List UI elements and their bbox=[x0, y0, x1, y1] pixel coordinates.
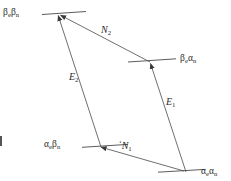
transition-arrow-E1 bbox=[151, 64, 187, 173]
transition-symbol: N bbox=[101, 24, 108, 35]
transition-subscript: 2 bbox=[75, 76, 78, 83]
energy-level-diagram: βeβn βeαn αeβn αeαn N2 E2 E1 ‘N1 bbox=[0, 0, 231, 181]
transition-arrow-E2 bbox=[58, 16, 101, 148]
level-bar-beta-e-beta-n bbox=[42, 12, 86, 15]
diagram-canvas bbox=[0, 0, 231, 181]
transition-prime-mark: ‘ bbox=[119, 139, 122, 148]
state-label-alpha-e-beta-n: αeβn bbox=[44, 140, 60, 150]
transition-subscript: 1 bbox=[128, 145, 131, 152]
transition-arrow-N2 bbox=[61, 15, 151, 62]
state-subscript-2: n bbox=[214, 170, 217, 177]
state-subscript-2: n bbox=[193, 57, 196, 64]
state-label-beta-e-beta-n: βeβn bbox=[3, 8, 19, 18]
transition-label-N2: N2 bbox=[101, 25, 111, 35]
transition-subscript: 1 bbox=[172, 101, 175, 108]
state-label-beta-e-alpha-n: βeαn bbox=[180, 54, 196, 64]
state-subscript-2: n bbox=[57, 143, 60, 150]
transition-label-E1: E1 bbox=[166, 97, 176, 107]
transition-subscript: 2 bbox=[108, 29, 111, 36]
transition-arrow-N1 bbox=[101, 147, 184, 171]
state-label-alpha-e-alpha-n: αeαn bbox=[201, 167, 217, 177]
level-bar-beta-e-alpha-n bbox=[128, 59, 176, 62]
state-subscript: e bbox=[206, 170, 209, 177]
transition-label-N1: ‘N1 bbox=[119, 141, 132, 151]
state-subscript: e bbox=[8, 11, 11, 18]
state-subscript-2: n bbox=[16, 11, 19, 18]
transition-label-E2: E2 bbox=[69, 72, 79, 82]
state-subscript: e bbox=[49, 143, 52, 150]
state-subscript: e bbox=[185, 57, 188, 64]
level-bar-alpha-e-alpha-n bbox=[158, 169, 205, 172]
